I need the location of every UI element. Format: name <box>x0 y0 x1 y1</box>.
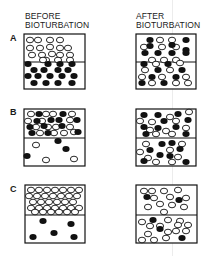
open-particle <box>63 209 70 215</box>
filled-particle <box>168 140 175 146</box>
open-particle <box>184 80 191 86</box>
filled-particle <box>149 217 156 223</box>
open-particle <box>138 74 145 80</box>
open-particle <box>43 187 50 193</box>
open-particle <box>166 194 173 200</box>
filled-particle <box>154 125 161 131</box>
filled-particle <box>59 111 66 117</box>
open-particle <box>56 45 63 51</box>
open-particle <box>57 193 64 199</box>
filled-particle <box>73 117 80 123</box>
filled-particle <box>70 234 77 240</box>
filled-particle <box>166 153 173 159</box>
open-particle <box>70 156 77 162</box>
panel-c-after <box>136 185 197 243</box>
open-particle <box>152 159 159 165</box>
open-particle <box>41 193 48 199</box>
open-particle <box>46 37 53 43</box>
filled-particle <box>140 61 147 67</box>
open-particle <box>168 131 175 137</box>
filled-particle <box>24 73 31 79</box>
open-particle <box>152 61 159 67</box>
open-particle <box>158 74 165 80</box>
open-particle <box>46 44 53 50</box>
filled-particle <box>160 118 167 124</box>
open-particle <box>55 209 62 215</box>
filled-particle <box>175 197 182 203</box>
open-particle <box>140 44 147 50</box>
open-particle <box>45 199 52 205</box>
filled-particle <box>172 74 179 80</box>
filled-particle <box>56 61 63 67</box>
filled-particle <box>54 80 61 86</box>
open-particle <box>59 187 66 193</box>
open-particle <box>146 223 153 229</box>
panel-a-before <box>24 34 85 89</box>
filled-particle <box>172 124 179 130</box>
filled-particle <box>160 80 167 86</box>
open-particle <box>68 111 75 117</box>
filled-particle <box>24 61 31 67</box>
filled-particle <box>142 131 149 137</box>
bioturbation-diagram <box>0 0 208 256</box>
open-particle <box>49 193 56 199</box>
filled-particle <box>176 146 183 152</box>
open-particle <box>24 118 31 124</box>
filled-particle <box>64 67 71 73</box>
panel-b-before <box>23 109 85 166</box>
open-particle <box>42 157 49 163</box>
open-particle <box>66 117 73 123</box>
filled-particle <box>44 61 51 67</box>
open-particle <box>56 37 63 43</box>
filled-particle <box>42 80 49 86</box>
open-particle <box>37 199 44 205</box>
filled-particle <box>174 111 181 117</box>
open-particle <box>164 229 171 235</box>
open-particle <box>166 114 173 120</box>
filled-particle <box>30 67 37 73</box>
open-particle <box>182 195 189 201</box>
filled-particle <box>154 67 161 73</box>
open-particle <box>180 204 187 210</box>
open-particle <box>164 217 171 223</box>
open-particle <box>35 187 42 193</box>
open-particle <box>156 37 163 43</box>
open-particle <box>142 141 149 147</box>
open-particle <box>138 219 145 225</box>
filled-particle <box>58 123 65 129</box>
open-particle <box>27 187 34 193</box>
filled-particle <box>35 111 42 117</box>
open-particle <box>174 187 181 193</box>
open-particle <box>29 199 36 205</box>
open-particle <box>26 37 33 43</box>
filled-particle <box>168 42 175 48</box>
open-particle <box>174 154 181 160</box>
open-particle <box>34 37 41 43</box>
filled-particle <box>58 73 65 79</box>
filled-particle <box>140 124 147 130</box>
open-particle <box>39 209 46 215</box>
filled-particle <box>68 61 75 67</box>
open-particle <box>67 187 74 193</box>
filled-particle <box>46 73 53 79</box>
open-particle <box>28 52 35 58</box>
open-particle <box>141 67 148 73</box>
open-particle <box>47 209 54 215</box>
filled-particle <box>143 194 150 200</box>
open-particle <box>182 228 189 234</box>
filled-particle <box>178 235 185 241</box>
open-particle <box>156 201 163 207</box>
open-particle <box>73 193 80 199</box>
filled-particle <box>182 159 189 165</box>
filled-particle <box>67 221 74 227</box>
open-particle <box>160 209 167 215</box>
open-particle <box>32 142 39 148</box>
filled-particle <box>30 80 37 86</box>
open-particle <box>162 235 169 241</box>
filled-particle <box>184 117 191 123</box>
open-particle <box>152 131 159 137</box>
filled-particle <box>39 218 46 224</box>
open-particle <box>36 45 43 51</box>
filled-particle <box>54 67 61 73</box>
open-particle <box>51 187 58 193</box>
